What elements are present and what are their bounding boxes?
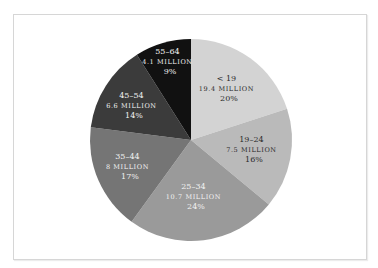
pie-chart: < 19 19.4 MILLION 20% 19–24 7.5 MILLION … <box>0 0 378 268</box>
